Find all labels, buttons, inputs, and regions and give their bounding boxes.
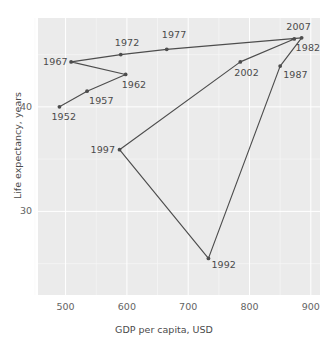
data-point-marker xyxy=(124,73,128,77)
data-point-marker xyxy=(85,89,89,93)
x-axis-title: GDP per capita, USD xyxy=(0,324,328,335)
y-axis-title: Life expectancy, years xyxy=(12,76,23,216)
data-point-label: 1967 xyxy=(43,57,68,67)
data-point-label: 1987 xyxy=(283,70,308,80)
data-point-marker xyxy=(69,60,73,64)
data-point-marker xyxy=(300,36,304,40)
data-point-marker xyxy=(292,37,296,41)
x-tick-label: 500 xyxy=(57,302,75,312)
data-point-marker xyxy=(119,53,123,57)
data-point-marker xyxy=(238,60,242,64)
plot-area xyxy=(38,18,320,295)
x-tick-label: 800 xyxy=(240,302,258,312)
data-point-marker xyxy=(58,105,62,109)
chart-figure: 1952195719621967197219771982198719921997… xyxy=(0,0,328,346)
data-point-marker xyxy=(165,47,169,51)
data-point-label: 1977 xyxy=(162,30,187,40)
x-tick-label: 900 xyxy=(302,302,320,312)
data-point-marker xyxy=(118,148,122,152)
x-tick-label: 600 xyxy=(118,302,136,312)
data-point-label: 1992 xyxy=(211,260,236,270)
data-point-label: 1982 xyxy=(296,43,321,53)
data-point-label: 1952 xyxy=(51,112,76,122)
data-point-marker xyxy=(207,257,211,261)
data-point-label: 1957 xyxy=(89,96,114,106)
data-point-label: 1972 xyxy=(115,38,140,48)
data-point-label: 1962 xyxy=(122,80,147,90)
data-point-label: 2007 xyxy=(286,22,311,32)
data-point-label: 1997 xyxy=(91,145,116,155)
series-layer xyxy=(38,18,320,295)
data-point-label: 2002 xyxy=(234,68,259,78)
data-point-marker xyxy=(278,64,282,68)
x-tick-label: 700 xyxy=(179,302,197,312)
